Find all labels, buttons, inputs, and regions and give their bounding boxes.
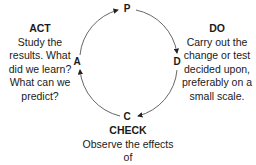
check-block: CHECK Observe the effects of the change … [78, 124, 178, 164]
arrow-plan-to-do [136, 10, 177, 53]
do-desc-line: change or test [176, 49, 256, 63]
act-desc-line: did we learn? [0, 63, 80, 77]
do-desc-line: small scale. [176, 90, 256, 104]
arrow-act-to-plan [80, 10, 118, 55]
do-desc-line: preferably on a [176, 76, 256, 90]
do-block: DO Carry out the change or test decided … [176, 22, 256, 103]
act-desc-line: predict? [0, 90, 80, 104]
arrow-do-to-check [138, 70, 177, 116]
act-block: ACT Study the results. What did we learn… [0, 22, 80, 103]
node-plan: P [121, 4, 133, 14]
act-desc-line: results. What [0, 49, 80, 63]
act-desc-line: Study the [0, 36, 80, 50]
node-check: C [121, 112, 133, 122]
arrow-check-to-act [80, 70, 120, 116]
act-desc-line: What can we [0, 76, 80, 90]
act-title: ACT [0, 22, 80, 36]
do-desc-line: Carry out the [176, 36, 256, 50]
check-title: CHECK [78, 124, 178, 138]
do-title: DO [176, 22, 256, 36]
do-desc-line: decided upon, [176, 63, 256, 77]
check-desc-line: Observe the effects of [78, 138, 178, 165]
